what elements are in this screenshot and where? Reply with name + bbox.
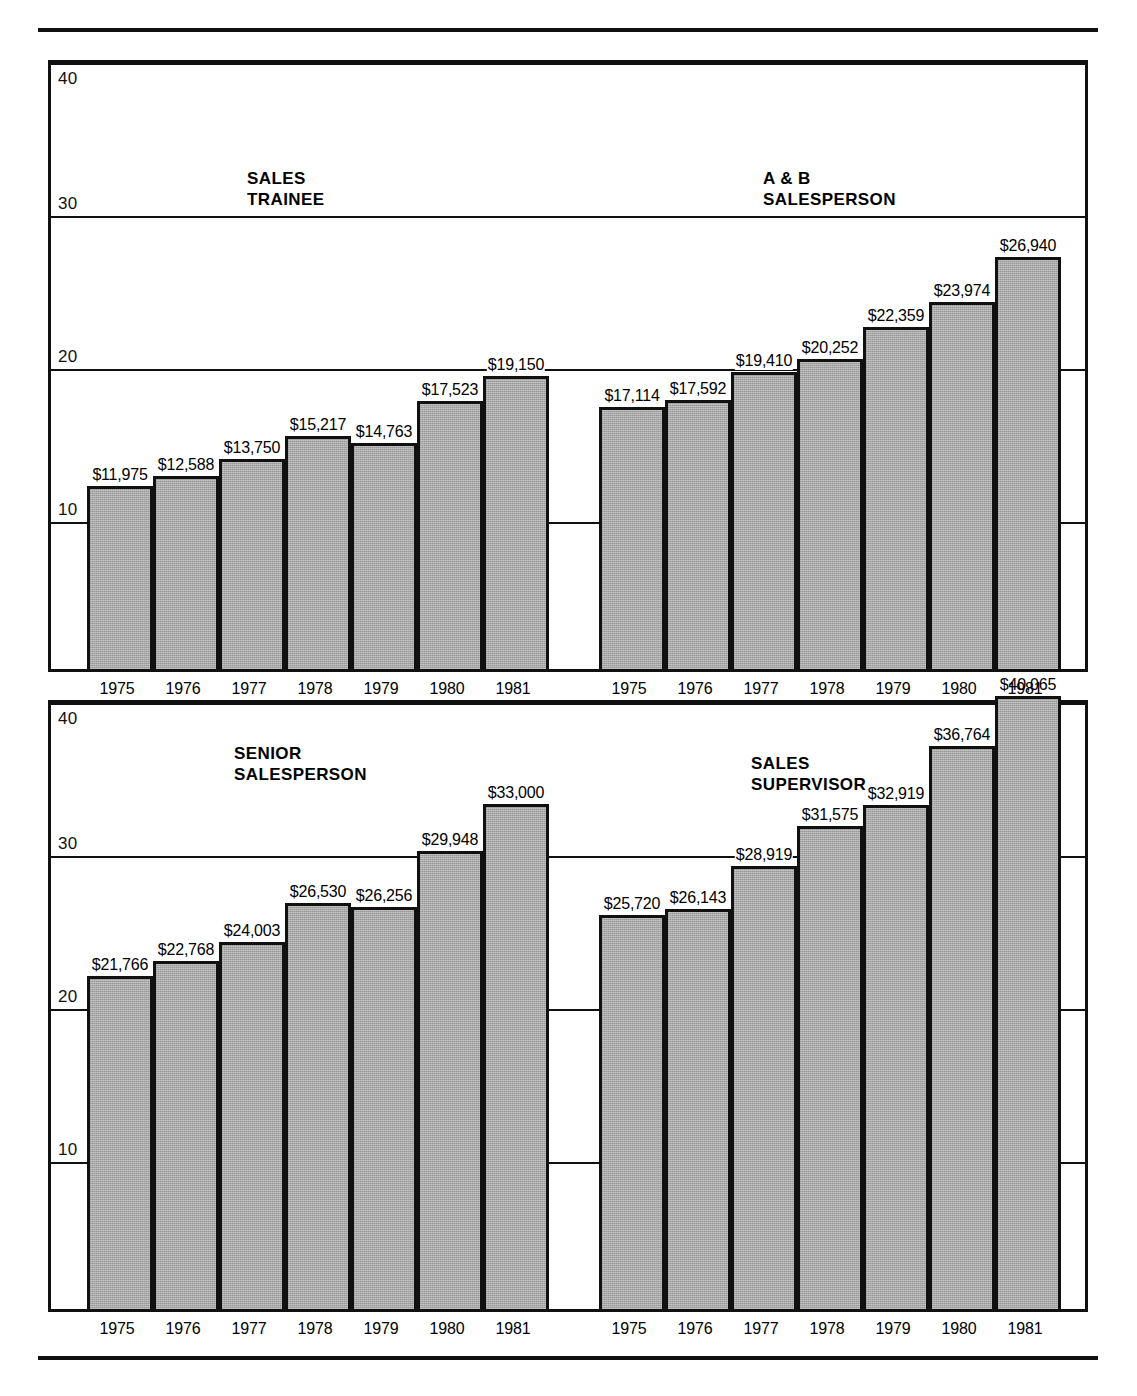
bar-slot[interactable]: $36,764 xyxy=(929,703,995,1309)
bar-slot[interactable]: $23,974 xyxy=(929,63,995,669)
bar[interactable]: $26,143 xyxy=(665,909,731,1309)
bar[interactable]: $26,256 xyxy=(351,907,417,1309)
bar[interactable]: $17,114 xyxy=(599,407,665,669)
bar-slot[interactable]: $26,143 xyxy=(665,703,731,1309)
x-label: 1976 xyxy=(150,676,216,702)
bar-value-label: $26,940 xyxy=(999,237,1057,255)
x-label: 1977 xyxy=(216,1316,282,1342)
bar-slot[interactable]: $11,975 xyxy=(87,63,153,669)
bar[interactable]: $17,592 xyxy=(665,400,731,669)
bar-slot[interactable]: $32,919 xyxy=(863,703,929,1309)
chart-panel-top: 40 30 20 10 SALES TRAINEE A & B SALESPER… xyxy=(48,60,1088,672)
x-axis-sales-supervisor: 1975 1976 1977 1978 1979 1980 1981 xyxy=(596,1316,1058,1342)
bar-group-sales-trainee: $11,975 $12,588 $13,750 $15,217 xyxy=(87,63,549,669)
bar-slot[interactable]: $22,359 xyxy=(863,63,929,669)
bar[interactable]: $19,410 xyxy=(731,372,797,669)
bar-slot[interactable]: $26,530 xyxy=(285,703,351,1309)
bar-slot[interactable]: $15,217 xyxy=(285,63,351,669)
bar-value-label: $31,575 xyxy=(801,806,859,824)
chart-title-sales-supervisor: SALES SUPERVISOR xyxy=(751,753,866,795)
bar-value-label: $21,766 xyxy=(91,956,149,974)
bar-value-label: $19,150 xyxy=(487,356,545,374)
bar[interactable]: $26,940 xyxy=(995,257,1061,669)
chart-ab-salesperson: $17,114 $17,592 $19,410 $20,252 xyxy=(571,63,1085,669)
bar-slot[interactable]: $26,940 xyxy=(995,63,1061,669)
x-label: 1980 xyxy=(926,676,992,702)
bar-slot[interactable]: $19,150 xyxy=(483,63,549,669)
bar-value-label: $22,359 xyxy=(867,307,925,325)
bar-slot[interactable]: $14,763 xyxy=(351,63,417,669)
bar-value-label: $20,252 xyxy=(801,339,859,357)
bar[interactable]: $23,974 xyxy=(929,302,995,669)
horizontal-rule-bottom xyxy=(38,1356,1098,1360)
bar[interactable]: $17,523 xyxy=(417,401,483,669)
bar[interactable]: $40,065 xyxy=(995,696,1061,1309)
bar-slot[interactable]: $17,592 xyxy=(665,63,731,669)
bar-value-label: $26,256 xyxy=(355,887,413,905)
x-axis-senior-salesperson: 1975 1976 1977 1978 1979 1980 1981 xyxy=(84,1316,546,1342)
horizontal-rule-top xyxy=(38,28,1098,32)
x-label: 1979 xyxy=(348,1316,414,1342)
bar[interactable]: $22,359 xyxy=(863,327,929,669)
bar-slot[interactable]: $13,750 xyxy=(219,63,285,669)
x-label: 1977 xyxy=(728,676,794,702)
bar[interactable]: $14,763 xyxy=(351,443,417,669)
chart-senior-salesperson: $21,766 $22,768 $24,003 $26,530 xyxy=(51,703,571,1309)
bar-value-label: $17,523 xyxy=(421,381,479,399)
chart-title-sales-trainee: SALES TRAINEE xyxy=(247,168,324,210)
bar-value-label: $33,000 xyxy=(487,784,545,802)
bar[interactable]: $31,575 xyxy=(797,826,863,1309)
x-label: 1980 xyxy=(414,676,480,702)
bar-slot[interactable]: $25,720 xyxy=(599,703,665,1309)
x-label: 1981 xyxy=(992,676,1058,702)
x-label: 1979 xyxy=(860,1316,926,1342)
bar[interactable]: $15,217 xyxy=(285,436,351,669)
bar-slot[interactable]: $40,065 xyxy=(995,703,1061,1309)
bar[interactable]: $22,768 xyxy=(153,961,219,1309)
bar-value-label: $25,720 xyxy=(603,895,661,913)
bar[interactable]: $28,919 xyxy=(731,866,797,1309)
bar-value-label: $15,217 xyxy=(289,416,347,434)
bar[interactable]: $26,530 xyxy=(285,903,351,1309)
bar[interactable]: $29,948 xyxy=(417,851,483,1309)
bar-slot[interactable]: $33,000 xyxy=(483,703,549,1309)
bar-slot[interactable]: $22,768 xyxy=(153,703,219,1309)
bar[interactable]: $20,252 xyxy=(797,359,863,669)
bar-slot[interactable]: $21,766 xyxy=(87,703,153,1309)
bar[interactable]: $36,764 xyxy=(929,746,995,1309)
bar-value-label: $28,919 xyxy=(735,846,793,864)
x-label: 1981 xyxy=(480,676,546,702)
x-axis-ab-salesperson: 1975 1976 1977 1978 1979 1980 1981 xyxy=(596,676,1058,702)
bar[interactable]: $21,766 xyxy=(87,976,153,1309)
x-label: 1977 xyxy=(728,1316,794,1342)
bar[interactable]: $33,000 xyxy=(483,804,549,1309)
bar-value-label: $14,763 xyxy=(355,423,413,441)
x-label: 1975 xyxy=(84,1316,150,1342)
bar-slot[interactable]: $17,114 xyxy=(599,63,665,669)
x-label: 1976 xyxy=(150,1316,216,1342)
bar-group-senior-salesperson: $21,766 $22,768 $24,003 $26,530 xyxy=(87,703,549,1309)
bar[interactable]: $11,975 xyxy=(87,486,153,669)
bar[interactable]: $24,003 xyxy=(219,942,285,1309)
bar-value-label: $19,410 xyxy=(735,352,793,370)
bar-slot[interactable]: $26,256 xyxy=(351,703,417,1309)
bar-value-label: $12,588 xyxy=(157,456,215,474)
bar-slot[interactable]: $19,410 xyxy=(731,63,797,669)
bar[interactable]: $25,720 xyxy=(599,915,665,1309)
bar[interactable]: $32,919 xyxy=(863,805,929,1309)
x-axis-sales-trainee: 1975 1976 1977 1978 1979 1980 1981 xyxy=(84,676,546,702)
x-label: 1979 xyxy=(348,676,414,702)
bar-slot[interactable]: $17,523 xyxy=(417,63,483,669)
bar[interactable]: $19,150 xyxy=(483,376,549,669)
chart-title-senior-salesperson: SENIOR SALESPERSON xyxy=(234,743,367,785)
bar-slot[interactable]: $29,948 xyxy=(417,703,483,1309)
x-label: 1978 xyxy=(282,1316,348,1342)
bar-value-label: $23,974 xyxy=(933,282,991,300)
bar[interactable]: $12,588 xyxy=(153,476,219,669)
bar-value-label: $36,764 xyxy=(933,726,991,744)
bar[interactable]: $13,750 xyxy=(219,459,285,669)
bar-slot[interactable]: $20,252 xyxy=(797,63,863,669)
bar-slot[interactable]: $12,588 xyxy=(153,63,219,669)
bar-slot[interactable]: $24,003 xyxy=(219,703,285,1309)
bar-value-label: $32,919 xyxy=(867,785,925,803)
